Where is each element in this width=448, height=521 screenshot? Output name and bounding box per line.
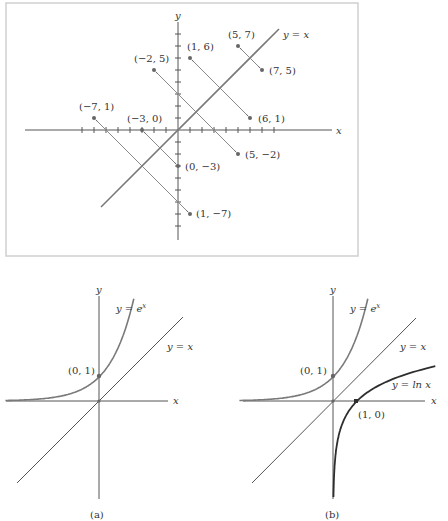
graph-a: x y (0, 1) y = ex y = x (a): [5, 284, 193, 520]
graph-b: x y (0, 1) (1, 0) y = ex y = x y = ln x …: [239, 284, 437, 520]
graph-b-point-0-1: [331, 374, 335, 378]
data-point: [176, 164, 180, 168]
data-point: [92, 116, 96, 120]
graph-b-ln-label: y = ln x: [391, 379, 431, 390]
point-label: (0, −3): [185, 161, 220, 172]
data-point: [188, 212, 192, 216]
x-axis-label: x: [336, 125, 342, 136]
point-label: (5, −2): [245, 149, 280, 160]
graph-a-y-label: y: [95, 284, 102, 295]
graph-a-line-label: y = x: [166, 341, 193, 352]
point-label: (−7, 1): [79, 101, 114, 112]
graph-a-point-0-1: [97, 374, 101, 378]
graph-b-exp-label: y = ex: [349, 302, 380, 314]
reflected-point-pairs: (−7, 1)(1, −7)(−3, 0)(0, −3)(−2, 5)(5, −…: [79, 29, 296, 219]
point-label: (7, 5): [269, 65, 296, 76]
data-point: [248, 116, 252, 120]
graph-b-line-label: y = x: [399, 341, 426, 352]
figure-canvas: x y y = x (−7, 1)(1, −7)(−3, 0)(0, −3)(−…: [0, 0, 448, 521]
data-point: [236, 44, 240, 48]
graph-b-caption: (b): [325, 509, 339, 520]
y-axis-label: y: [174, 10, 181, 21]
point-label: (1, −7): [196, 208, 231, 219]
graph-a-caption: (a): [90, 509, 104, 520]
graph-b-y-label: y: [329, 284, 336, 295]
data-point: [152, 68, 156, 72]
point-label: (1, 6): [187, 41, 214, 52]
graph-b-origin-point: [331, 399, 334, 402]
top-figure: x y y = x (−7, 1)(1, −7)(−3, 0)(0, −3)(−…: [6, 3, 358, 256]
data-point: [236, 152, 240, 156]
point-label: (6, 1): [258, 113, 285, 124]
point-label: (−3, 0): [127, 113, 162, 124]
diagonal-label: y = x: [282, 29, 309, 40]
graph-a-origin-point: [97, 399, 100, 402]
graph-b-point-1-0: [354, 399, 358, 403]
point-label: (−2, 5): [134, 53, 169, 64]
graph-a-point-label: (0, 1): [68, 365, 95, 376]
graph-b-point-ln-label: (1, 0): [358, 409, 385, 420]
graph-a-x-label: x: [173, 395, 179, 406]
graph-b-point-exp-label: (0, 1): [300, 365, 327, 376]
point-pair: (1, 6)(6, 1): [187, 41, 285, 124]
data-point: [260, 68, 264, 72]
point-label: (5, 7): [228, 29, 255, 40]
graph-a-exp-label: y = ex: [115, 302, 146, 314]
data-point: [188, 56, 192, 60]
data-point: [140, 128, 144, 132]
graph-b-x-label: x: [431, 395, 437, 406]
